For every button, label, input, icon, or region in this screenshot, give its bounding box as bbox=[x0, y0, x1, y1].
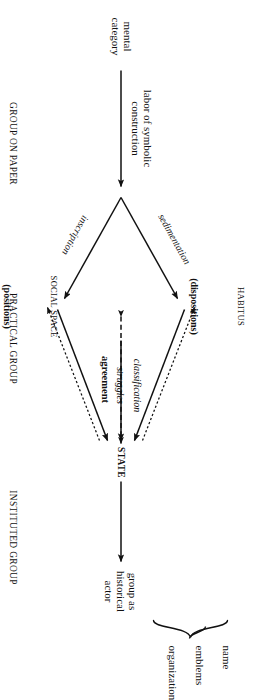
edge-label-classification: classification bbox=[131, 358, 142, 411]
curly-brace bbox=[153, 620, 227, 638]
node-habitus-subtitle: (dispositions) bbox=[188, 278, 199, 335]
node-state: STATE bbox=[115, 447, 126, 478]
footer-practical-group: PRACTICAL GROUP bbox=[7, 292, 18, 383]
node-mental-category: mental category bbox=[109, 17, 134, 55]
node-habitus: HABITUS (dispositions) bbox=[152, 278, 280, 335]
node-social-space-title: SOCIAL SPACE bbox=[48, 275, 58, 337]
node-habitus-title: HABITUS bbox=[235, 278, 245, 335]
edge-label-agreement: agreement bbox=[99, 355, 111, 402]
brace-item-emblems: emblems bbox=[193, 645, 205, 685]
footer-instituted-group: INSTITUTED GROUP bbox=[7, 490, 18, 584]
edge-label-struggles: struggles bbox=[114, 367, 125, 404]
brace-item-organization: organization bbox=[166, 645, 178, 700]
footer-group-on-paper: GROUP ON PAPER bbox=[7, 102, 18, 185]
node-group-as-historical-actor: group as historical actor bbox=[102, 571, 139, 612]
brace-item-name: name bbox=[220, 645, 232, 669]
edge-label-labor-of-symbolic-construction: labor of symbolic construction bbox=[129, 89, 154, 167]
